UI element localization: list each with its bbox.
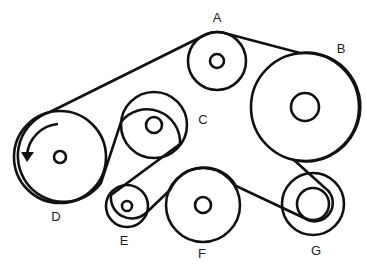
label-b: B: [337, 41, 346, 56]
arrowhead-icon: [21, 152, 34, 162]
pulley-g: [282, 173, 344, 235]
hub-a: [210, 54, 224, 68]
label-c: C: [198, 112, 207, 127]
pulley-b: [251, 53, 359, 161]
label-d: D: [51, 209, 60, 224]
hub-f: [195, 197, 211, 213]
hub-g: [297, 188, 329, 220]
label-g: G: [311, 243, 321, 258]
hub-e: [122, 201, 132, 211]
hub-b: [291, 93, 319, 121]
label-a: A: [213, 10, 222, 25]
belt-routing-diagram: A B C D E F G: [0, 0, 367, 271]
pulley-c: [121, 92, 187, 158]
hub-c: [146, 117, 162, 133]
hub-d: [54, 151, 66, 163]
label-f: F: [198, 246, 206, 261]
rotation-arrow-icon: [27, 124, 58, 155]
label-e: E: [120, 233, 129, 248]
pulley-f: [166, 168, 240, 242]
pulley-a: [188, 32, 246, 90]
